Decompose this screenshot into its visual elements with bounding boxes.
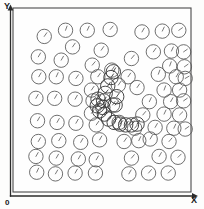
caption-partial <box>0 202 204 209</box>
plot-canvas: Y X 0 <box>0 0 204 209</box>
x-axis <box>11 193 199 199</box>
y-axis-label: Y <box>4 1 10 11</box>
scatter-plot-figure: Y X 0 <box>0 0 204 209</box>
